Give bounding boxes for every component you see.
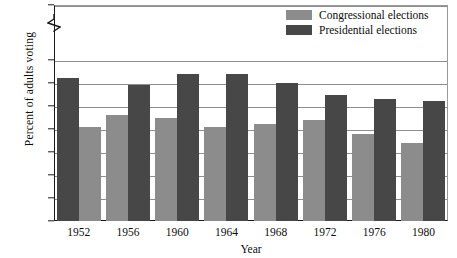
bar-congressional-1952 xyxy=(79,127,101,221)
bar-congressional-1976 xyxy=(352,134,374,221)
legend-label-congressional: Congressional elections xyxy=(319,9,429,21)
bar-presidential-1956 xyxy=(128,85,150,221)
legend-item-congressional: Congressional elections xyxy=(286,9,429,21)
bar-congressional-1956 xyxy=(106,115,128,221)
bar-presidential-1952 xyxy=(57,78,79,221)
x-tick-label-1980: 1980 xyxy=(393,226,453,238)
bar-presidential-1976 xyxy=(374,99,396,221)
bars-layer xyxy=(54,5,448,221)
bar-presidential-1964 xyxy=(226,74,248,221)
legend-label-presidential: Presidential elections xyxy=(319,24,417,36)
bar-congressional-1964 xyxy=(204,127,226,221)
bar-congressional-1960 xyxy=(155,118,177,222)
legend-swatch-congressional xyxy=(286,10,312,20)
legend-item-presidential: Presidential elections xyxy=(286,24,429,36)
bar-presidential-1968 xyxy=(276,83,298,221)
voter-turnout-bar-chart: Percent of adults voting 010203040506070… xyxy=(0,0,457,258)
bar-congressional-1980 xyxy=(401,143,423,221)
bar-presidential-1980 xyxy=(423,101,445,221)
y-axis-title: Percent of adults voting xyxy=(23,9,35,169)
legend-swatch-presidential xyxy=(286,25,312,35)
bar-presidential-1960 xyxy=(177,74,199,221)
bar-presidential-1972 xyxy=(325,95,347,222)
bar-congressional-1972 xyxy=(303,120,325,221)
bar-congressional-1968 xyxy=(254,124,276,221)
legend: Congressional elections Presidential ele… xyxy=(286,9,429,36)
x-axis-title: Year xyxy=(54,243,448,255)
